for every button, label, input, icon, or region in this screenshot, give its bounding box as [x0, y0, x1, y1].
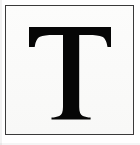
glyph-area — [6, 6, 133, 134]
scan-edge-shading-bottom — [0, 143, 140, 145]
letter-tile-frame — [5, 5, 134, 135]
image-canvas: T — [0, 0, 140, 145]
scan-edge-shading-left — [0, 0, 2, 145]
letter-t-glyph — [6, 6, 135, 136]
